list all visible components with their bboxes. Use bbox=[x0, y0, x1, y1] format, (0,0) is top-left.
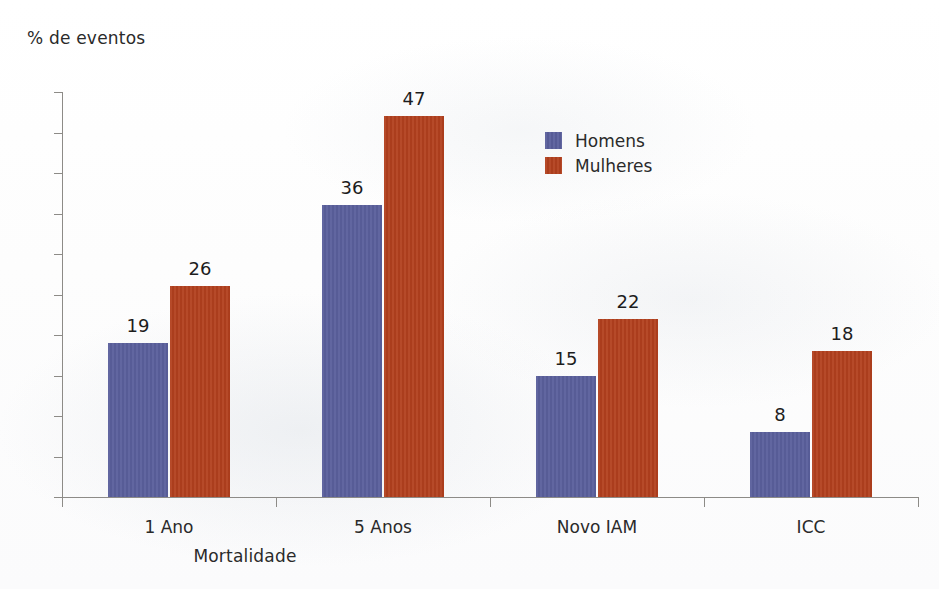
x-tick-mark bbox=[490, 498, 491, 507]
x-tick-mark bbox=[704, 498, 705, 507]
plot-area: 192636471522818 bbox=[62, 92, 918, 497]
y-tick-mark bbox=[54, 133, 62, 134]
y-tick-mark bbox=[54, 254, 62, 255]
y-axis-title: % de eventos bbox=[27, 28, 145, 48]
bar-value-label: 47 bbox=[403, 88, 426, 109]
legend-item-mulheres: Mulheres bbox=[545, 153, 652, 178]
legend-swatch-homens-icon bbox=[545, 132, 562, 149]
bar-homens bbox=[108, 343, 168, 497]
bar-value-label: 19 bbox=[127, 315, 150, 336]
bar-mulheres bbox=[170, 286, 230, 497]
bar-homens bbox=[322, 205, 382, 497]
y-tick-mark bbox=[54, 416, 62, 417]
legend-label-mulheres: Mulheres bbox=[575, 156, 652, 176]
x-axis-title: Mortalidade bbox=[0, 546, 490, 566]
bar-homens bbox=[536, 376, 596, 498]
bar-mulheres bbox=[598, 319, 658, 497]
chart-legend: Homens Mulheres bbox=[545, 128, 652, 178]
legend-item-homens: Homens bbox=[545, 128, 652, 153]
bar-mulheres bbox=[812, 351, 872, 497]
bar-mulheres bbox=[384, 116, 444, 497]
x-tick-label: ICC bbox=[797, 517, 826, 537]
y-tick-mark bbox=[54, 335, 62, 336]
y-tick-mark bbox=[54, 376, 62, 377]
bar-homens bbox=[750, 432, 810, 497]
bar-value-label: 18 bbox=[831, 323, 854, 344]
bar-value-label: 15 bbox=[555, 348, 578, 369]
x-tick-label: 5 Anos bbox=[354, 517, 412, 537]
x-tick-label: Novo IAM bbox=[557, 517, 637, 537]
y-tick-mark bbox=[54, 295, 62, 296]
x-tick-label: 1 Ano bbox=[144, 517, 193, 537]
x-tick-mark bbox=[918, 498, 919, 507]
legend-label-homens: Homens bbox=[575, 131, 645, 151]
bar-value-label: 36 bbox=[341, 177, 364, 198]
legend-swatch-mulheres-icon bbox=[545, 157, 562, 174]
bar-value-label: 22 bbox=[617, 291, 640, 312]
y-tick-mark bbox=[54, 173, 62, 174]
x-tick-mark bbox=[276, 498, 277, 507]
y-tick-mark bbox=[54, 497, 62, 498]
chart-page: % de eventos 05101520253035404550 192636… bbox=[0, 0, 939, 589]
y-tick-mark bbox=[54, 214, 62, 215]
y-tick-mark bbox=[54, 457, 62, 458]
y-tick-mark bbox=[54, 92, 62, 93]
bar-value-label: 26 bbox=[189, 258, 212, 279]
bar-value-label: 8 bbox=[774, 404, 785, 425]
x-tick-mark bbox=[62, 498, 63, 507]
